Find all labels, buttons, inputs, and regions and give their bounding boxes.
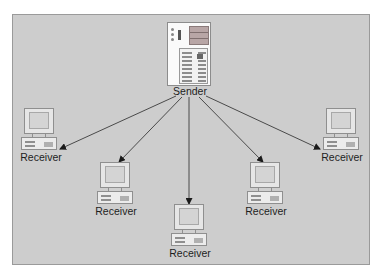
server-leds	[171, 27, 181, 44]
sender-label: Sender	[173, 85, 207, 97]
server-icon	[167, 22, 211, 86]
receiver-label-1: Receiver	[20, 151, 61, 163]
server-drive-panel	[189, 26, 209, 45]
computer-icon	[323, 108, 359, 154]
receiver-label-5: Receiver	[321, 151, 362, 163]
computer-icon	[247, 162, 283, 208]
computer-icon	[171, 204, 207, 250]
receiver-label-2: Receiver	[95, 205, 136, 217]
arrow-to-receiver-2	[119, 97, 182, 162]
arrow-to-receiver-1	[60, 96, 176, 149]
computer-icon	[21, 108, 57, 154]
arrow-to-receiver-4	[199, 97, 263, 162]
computer-icon	[97, 162, 133, 208]
server-bay	[179, 48, 208, 84]
receiver-label-3: Receiver	[169, 247, 210, 259]
arrow-to-receiver-5	[206, 96, 320, 149]
receiver-label-4: Receiver	[245, 205, 286, 217]
